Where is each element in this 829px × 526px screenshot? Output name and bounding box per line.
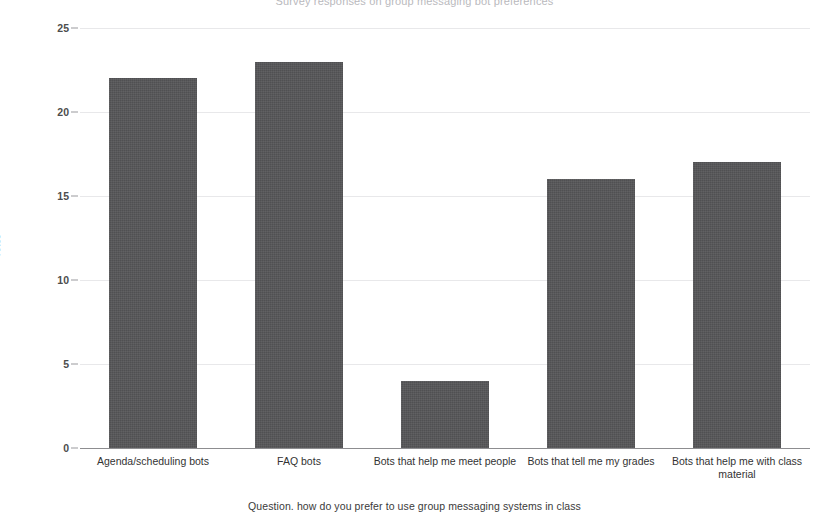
y-axis-tick-mark bbox=[71, 448, 78, 449]
y-axis-tick-label: 25 bbox=[57, 22, 69, 34]
bar-chart-figure: Votes 0510152025 Question. how do you pr… bbox=[0, 0, 829, 526]
x-axis-tick-label: Bots that help me with class material bbox=[664, 455, 810, 481]
bar bbox=[693, 162, 781, 448]
y-axis-tick-mark bbox=[71, 364, 78, 365]
y-axis-tick-mark bbox=[71, 28, 78, 29]
y-axis-tick-label: 10 bbox=[57, 274, 69, 286]
x-axis-tick-label: FAQ bots bbox=[226, 455, 372, 468]
y-axis-title: Votes bbox=[0, 244, 60, 258]
x-axis-tick-label: Bots that tell me my grades bbox=[518, 455, 664, 468]
y-axis-tick-label: 15 bbox=[57, 190, 69, 202]
gridline bbox=[80, 28, 810, 29]
y-axis-tick-mark bbox=[71, 112, 78, 113]
plot-area: 0510152025 bbox=[80, 28, 810, 448]
bar bbox=[255, 62, 343, 448]
y-axis-tick-label: 5 bbox=[63, 358, 69, 370]
bar bbox=[109, 78, 197, 448]
y-axis-tick-label: 20 bbox=[57, 106, 69, 118]
bar bbox=[547, 179, 635, 448]
x-axis-title: Question. how do you prefer to use group… bbox=[0, 500, 829, 512]
y-axis-tick-mark bbox=[71, 196, 78, 197]
x-axis-baseline bbox=[80, 448, 810, 449]
y-axis-tick-label: 0 bbox=[63, 442, 69, 454]
y-axis-tick-mark bbox=[71, 280, 78, 281]
x-axis-tick-label: Agenda/scheduling bots bbox=[80, 455, 226, 468]
x-axis-tick-label: Bots that help me meet people bbox=[372, 455, 518, 468]
bar bbox=[401, 381, 489, 448]
